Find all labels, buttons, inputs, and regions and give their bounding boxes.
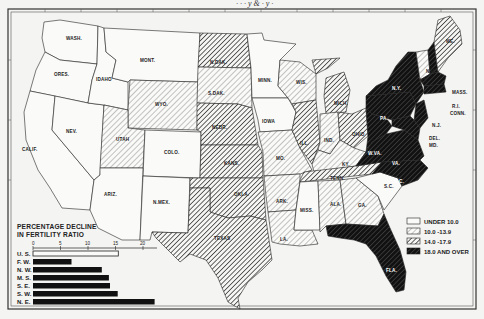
svg-text:IND.: IND. xyxy=(324,138,334,143)
bar-row-nw: N. W. xyxy=(17,267,102,273)
svg-text:S.C.: S.C. xyxy=(384,184,394,189)
svg-text:OHIO: OHIO xyxy=(352,132,365,137)
chart-bars: U. S. F. W. N. W. M. S. S. E. S. W. xyxy=(17,251,155,305)
svg-text:W.VA.: W.VA. xyxy=(368,151,382,156)
svg-text:20: 20 xyxy=(140,241,146,246)
svg-text:GA.: GA. xyxy=(358,203,367,208)
svg-text:10.0 -13.9: 10.0 -13.9 xyxy=(424,229,452,235)
svg-text:WIS.: WIS. xyxy=(296,80,307,85)
svg-text:10: 10 xyxy=(85,241,91,246)
svg-text:N.DAK.: N.DAK. xyxy=(210,60,227,65)
state-ariz xyxy=(90,168,143,240)
state-fla xyxy=(326,214,406,292)
svg-text:ALA.: ALA. xyxy=(330,202,342,207)
state-conn-ri xyxy=(424,84,446,94)
svg-text:F. W.: F. W. xyxy=(17,259,31,265)
svg-text:CALIF.: CALIF. xyxy=(22,147,38,152)
svg-text:IDAHO: IDAHO xyxy=(96,77,112,82)
svg-text:MO.: MO. xyxy=(276,156,285,161)
svg-text:MICH.: MICH. xyxy=(334,101,348,106)
svg-text:ARIZ.: ARIZ. xyxy=(104,192,117,197)
bar-row-ne: N. E. xyxy=(17,299,155,305)
svg-text:5: 5 xyxy=(59,241,62,246)
bar-row-us: U. S. xyxy=(17,251,118,257)
state-nmex xyxy=(140,176,190,240)
svg-text:IOWA: IOWA xyxy=(262,119,276,124)
svg-text:U. S.: U. S. xyxy=(17,251,31,257)
svg-text:18.0 AND OVER: 18.0 AND OVER xyxy=(424,249,469,255)
legend-item-under-10: UNDER 10.0 xyxy=(407,218,459,225)
svg-text:CONN.: CONN. xyxy=(450,111,466,116)
svg-text:ME.: ME. xyxy=(446,39,455,44)
state-iowa xyxy=(252,98,296,132)
svg-text:ARK.: ARK. xyxy=(276,199,288,204)
svg-text:MINN.: MINN. xyxy=(258,78,272,83)
svg-text:FLA.: FLA. xyxy=(386,268,397,273)
svg-text:15: 15 xyxy=(113,241,119,246)
svg-text:N.J.: N.J. xyxy=(432,123,441,128)
legend-item-14-17-9: 14.0 -17.9 xyxy=(407,238,452,245)
state-mont xyxy=(104,28,200,82)
svg-text:MASS.: MASS. xyxy=(452,90,468,95)
svg-text:S. W.: S. W. xyxy=(17,291,32,297)
svg-text:R.I.: R.I. xyxy=(452,104,460,109)
svg-text:0: 0 xyxy=(32,241,35,246)
svg-text:N.C.: N.C. xyxy=(394,179,404,184)
top-caption: · · · y & · y · xyxy=(236,0,273,8)
svg-text:NEV.: NEV. xyxy=(66,129,77,134)
svg-text:COLO.: COLO. xyxy=(164,150,180,155)
svg-text:MISS.: MISS. xyxy=(300,208,314,213)
svg-text:N.H.: N.H. xyxy=(426,69,436,74)
svg-text:UNDER 10.0: UNDER 10.0 xyxy=(424,219,459,225)
svg-text:PERCENTAGE DECLINE: PERCENTAGE DECLINE xyxy=(17,223,97,230)
svg-text:N.Y.: N.Y. xyxy=(392,86,401,91)
svg-text:14.0 -17.9: 14.0 -17.9 xyxy=(424,239,452,245)
state-ark xyxy=(264,174,300,212)
svg-text:DEL.: DEL. xyxy=(429,136,440,141)
svg-text:S. E.: S. E. xyxy=(17,283,30,289)
svg-text:TEXAS: TEXAS xyxy=(214,236,230,241)
bar-row-ms: M. S. xyxy=(17,275,109,281)
svg-text:N.MEX.: N.MEX. xyxy=(153,200,170,205)
svg-text:LA.: LA. xyxy=(280,237,288,242)
state-nebr xyxy=(197,103,258,145)
svg-text:PA.: PA. xyxy=(380,116,388,121)
legend-item-10-13-9: 10.0 -13.9 xyxy=(407,228,452,235)
bar-row-sw: S. W. xyxy=(17,291,118,297)
chart-x-axis: 0 5 10 15 20 xyxy=(32,241,157,250)
fertility-decline-map: · · · y & · y · xyxy=(0,0,484,319)
svg-text:NEBR.: NEBR. xyxy=(212,125,227,130)
state-me xyxy=(434,16,462,72)
svg-text:VA.: VA. xyxy=(392,161,400,166)
svg-text:TENN.: TENN. xyxy=(330,176,345,181)
svg-text:KANS.: KANS. xyxy=(224,161,239,166)
bar-row-se: S. E. xyxy=(17,283,110,289)
svg-text:UTAH: UTAH xyxy=(116,137,130,142)
svg-text:MD.: MD. xyxy=(429,143,438,148)
svg-text:IN FERTILITY RATIO: IN FERTILITY RATIO xyxy=(17,231,84,238)
svg-text:WYO.: WYO. xyxy=(155,102,168,107)
svg-text:N. W.: N. W. xyxy=(17,267,32,273)
svg-text:OKLA.: OKLA. xyxy=(234,192,249,197)
legend: UNDER 10.0 10.0 -13.9 14.0 -17.9 18.0 AN… xyxy=(407,218,469,255)
svg-text:ORES.: ORES. xyxy=(54,72,69,77)
svg-text:KY.: KY. xyxy=(342,162,350,167)
svg-text:ILL.: ILL. xyxy=(300,141,309,146)
svg-text:S.DAK.: S.DAK. xyxy=(208,91,225,96)
svg-text:VT.: VT. xyxy=(420,78,427,83)
bar-row-fw: F. W. xyxy=(17,259,72,265)
svg-text:MONT.: MONT. xyxy=(140,58,155,63)
svg-text:WASH.: WASH. xyxy=(66,36,82,41)
svg-text:M. S.: M. S. xyxy=(17,275,31,281)
state-sdak xyxy=(197,67,252,108)
svg-text:N. E.: N. E. xyxy=(17,299,31,305)
legend-item-18-and-over: 18.0 AND OVER xyxy=(407,248,469,255)
